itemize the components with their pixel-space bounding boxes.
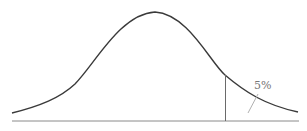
normal-curve-diagram: 5% xyxy=(0,0,307,131)
tail-percentage-label: 5% xyxy=(254,79,271,92)
bell-curve xyxy=(12,12,298,113)
label-leader-line xyxy=(248,94,258,113)
